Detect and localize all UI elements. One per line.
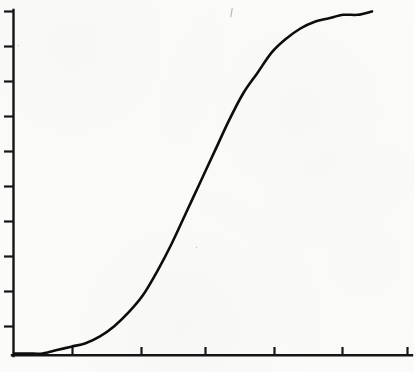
scan-speck [18,45,19,46]
chart-canvas [0,0,414,372]
scan-speck [196,247,197,248]
chart-figure [0,0,414,372]
plot-background [0,0,414,372]
